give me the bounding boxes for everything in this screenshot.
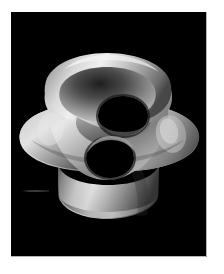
- shade-bottom: [11, 162, 206, 256]
- page-canvas: [0, 0, 224, 274]
- surface-svg: [11, 12, 206, 256]
- scanline-artifact: [22, 190, 49, 192]
- panel-right-edge: [206, 12, 207, 257]
- panel-bottom-edge: [11, 256, 207, 257]
- render-panel: [11, 12, 206, 256]
- genus-two-surface-object: [11, 12, 206, 256]
